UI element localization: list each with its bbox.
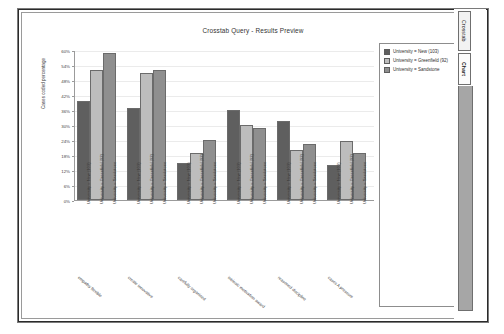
gridline	[74, 96, 374, 97]
gridline	[74, 51, 374, 52]
x-tick-label: University = Sandstone	[262, 148, 267, 204]
tab-strip-filler	[458, 86, 473, 311]
gridline	[74, 111, 374, 112]
y-tick-label: 42%	[40, 94, 70, 99]
tab-crosstab[interactable]: Crosstab	[458, 11, 471, 51]
x-tick-label: University = Sandstone	[312, 148, 317, 204]
x-tick-label: University = Greenfield (92)	[149, 148, 154, 204]
x-tick-label: University = Greenfield (92)	[199, 148, 204, 204]
y-tick-label: 30%	[40, 124, 70, 129]
legend-swatch	[384, 58, 390, 64]
legend-label: University = Greenfield (92)	[393, 58, 448, 64]
x-tick-label: University = Greenfield (92)	[249, 148, 254, 204]
y-tick-label: 6%	[40, 184, 70, 189]
x-tick-label: University = Sandstone	[362, 148, 367, 204]
tab-chart[interactable]: Chart	[458, 53, 471, 85]
gridline	[74, 81, 374, 82]
x-tick-label: University = New (103)	[136, 148, 141, 204]
x-tick-label: University = New (103)	[286, 148, 291, 204]
y-tick-label: 60%	[40, 49, 70, 54]
legend-label: University = Sandstone	[393, 67, 439, 73]
y-tick-label: 18%	[40, 154, 70, 159]
y-tick-mark	[72, 201, 74, 202]
x-tick-label: University = New (103)	[236, 148, 241, 204]
y-tick-label: 24%	[40, 139, 70, 144]
x-tick-label: University = Sandstone	[162, 148, 167, 204]
x-tick-label: University = Greenfield (92)	[299, 148, 304, 204]
x-tick-label: University = Sandstone	[112, 148, 117, 204]
category-label: reasoned discipline	[277, 275, 308, 302]
y-tick-label: 54%	[40, 64, 70, 69]
y-tick-label: 12%	[40, 169, 70, 174]
category-label: empathy flexible	[77, 275, 103, 298]
gridline	[74, 156, 374, 157]
legend-swatch	[384, 67, 390, 73]
y-tick-label: 0%	[40, 199, 70, 204]
x-tick-label: University = Sandstone	[212, 148, 217, 204]
category-label: cases A pressure	[327, 275, 355, 299]
category-label: intrinsic motivation award	[227, 275, 266, 309]
x-tick-label: University = New (103)	[86, 148, 91, 204]
legend-label: University = New (103)	[393, 49, 439, 55]
x-tick-label: University = Greenfield (92)	[99, 148, 104, 204]
gridline	[74, 66, 374, 67]
chart-title: Crosstab Query - Results Preview	[22, 27, 484, 34]
x-tick-label: University = New (103)	[186, 148, 191, 204]
category-label: create innovative	[127, 275, 154, 299]
view-tab-strip: Crosstab Chart	[454, 9, 486, 320]
x-tick-label: University = New (103)	[336, 148, 341, 204]
plot-area: 0%6%12%18%24%30%36%42%48%54%60%	[74, 51, 374, 201]
y-axis-line	[74, 51, 75, 201]
x-tick-label: University = Greenfield (92)	[349, 148, 354, 204]
results-preview-window: Crosstab Query - Results Preview Cases c…	[18, 9, 488, 322]
legend-swatch	[384, 49, 390, 55]
window-inner-border: Crosstab Query - Results Preview Cases c…	[21, 12, 485, 319]
gridline	[74, 126, 374, 127]
y-tick-label: 48%	[40, 79, 70, 84]
y-tick-label: 36%	[40, 109, 70, 114]
screenshot-root: Crosstab Query - Results Preview Cases c…	[0, 0, 504, 334]
category-label: carefully organised	[177, 275, 207, 301]
x-axis-line	[74, 200, 374, 201]
gridline	[74, 141, 374, 142]
